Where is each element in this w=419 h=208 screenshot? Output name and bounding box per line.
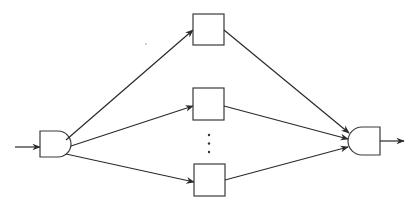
- parallel-system-diagram: ⋮: [0, 0, 419, 208]
- edge-split-to-block-n: [66, 154, 194, 182]
- edge-block-n-to-merge: [225, 147, 348, 180]
- merge-gate: [348, 127, 380, 155]
- speck: [145, 43, 146, 44]
- edge-block-2-to-merge: [224, 106, 348, 139]
- edge-split-to-block-2: [71, 106, 193, 146]
- edge-split-to-block-1: [66, 30, 193, 140]
- block-2: [193, 88, 224, 120]
- block-1: [193, 14, 224, 45]
- ellipsis-dots: [208, 134, 210, 153]
- edge-block-1-to-merge: [224, 30, 349, 133]
- block-n: [194, 164, 225, 196]
- split-gate: [40, 131, 71, 157]
